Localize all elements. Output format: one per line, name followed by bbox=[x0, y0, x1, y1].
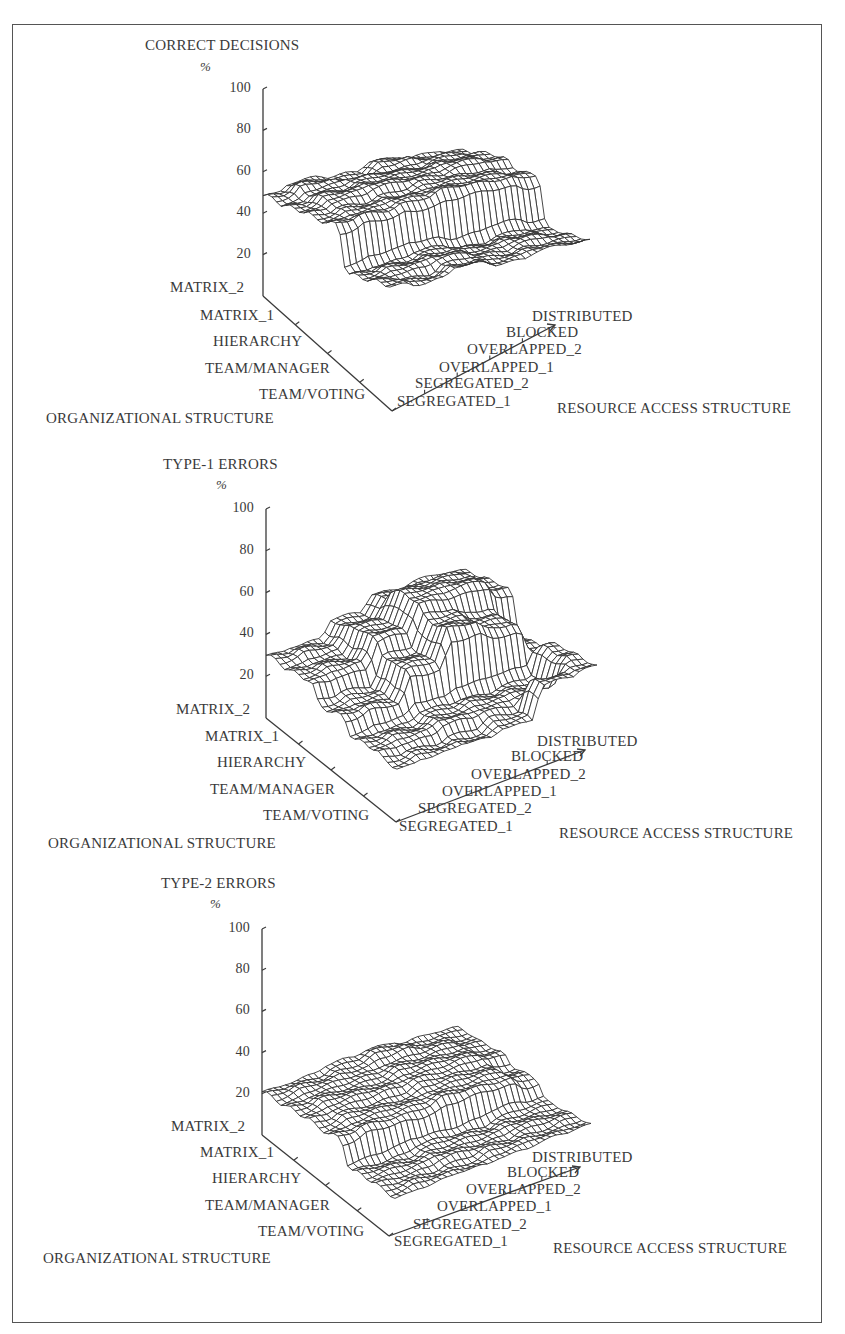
chart-title: TYPE-2 ERRORS bbox=[161, 875, 276, 892]
resource-level-label: SEGREGATED_1 bbox=[394, 1233, 508, 1250]
z-tick-100: 100 bbox=[210, 920, 250, 936]
org-level-label: MATRIX_2 bbox=[171, 1118, 245, 1135]
resource-level-label: OVERLAPPED_1 bbox=[437, 1198, 552, 1215]
resource-axis-title: RESOURCE ACCESS STRUCTURE bbox=[553, 1240, 787, 1257]
surface-plot bbox=[0, 0, 845, 1334]
z-unit-label: % bbox=[210, 896, 221, 912]
org-axis-title: ORGANIZATIONAL STRUCTURE bbox=[43, 1250, 271, 1267]
org-level-label: MATRIX_1 bbox=[200, 1144, 274, 1161]
resource-level-label: SEGREGATED_2 bbox=[413, 1216, 527, 1233]
resource-level-label: BLOCKED bbox=[507, 1164, 579, 1181]
z-tick-40: 40 bbox=[210, 1044, 250, 1060]
z-tick-80: 80 bbox=[210, 961, 250, 977]
org-level-label: HIERARCHY bbox=[212, 1170, 301, 1187]
resource-level-label: DISTRIBUTED bbox=[532, 1149, 633, 1166]
org-level-label: TEAM/VOTING bbox=[258, 1223, 364, 1240]
resource-level-label: OVERLAPPED_2 bbox=[466, 1181, 581, 1198]
z-tick-60: 60 bbox=[210, 1002, 250, 1018]
org-level-label: TEAM/MANAGER bbox=[205, 1197, 330, 1214]
z-tick-20: 20 bbox=[210, 1085, 250, 1101]
